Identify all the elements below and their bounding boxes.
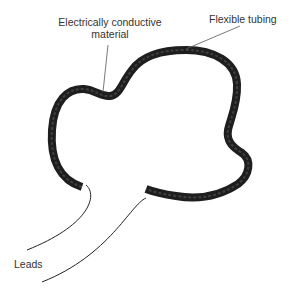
flexible-tube xyxy=(52,50,249,198)
label-leads: Leads xyxy=(14,258,43,270)
leader-conductive xyxy=(103,45,108,92)
leader-tubing xyxy=(186,26,240,49)
label-flexible-tubing: Flexible tubing xyxy=(209,13,277,25)
label-conductive-line1: Electrically conductive xyxy=(58,16,161,28)
lead-wire-left xyxy=(27,185,91,250)
sensor-diagram: Electrically conductive material Flexibl… xyxy=(0,0,292,294)
label-conductive-line2: material xyxy=(91,28,128,40)
lead-wire-right xyxy=(42,198,146,282)
